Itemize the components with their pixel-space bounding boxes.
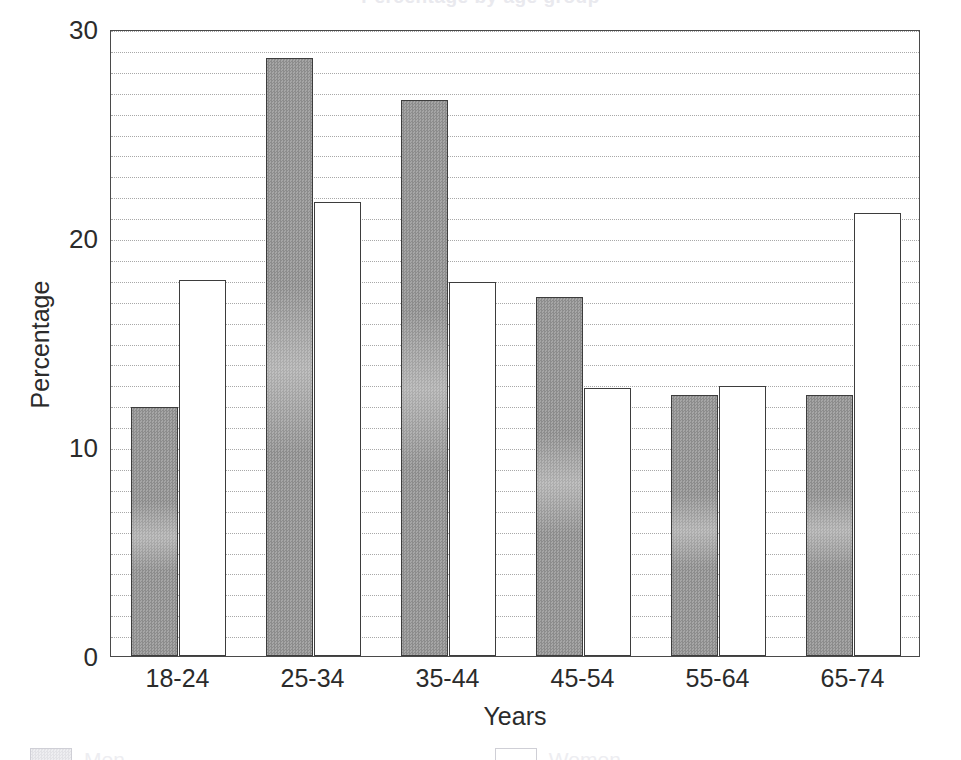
x-axis-ticks: 18-2425-3435-4445-5455-6465-74: [110, 664, 920, 698]
bar-65-74-men: [806, 395, 854, 656]
bar-45-54-men: [536, 297, 584, 656]
chart-title-cropped: Percentage by age group: [0, 0, 961, 14]
bar-18-24-women: [179, 280, 227, 656]
bar-55-64-women: [719, 386, 767, 656]
chart-title: Percentage by age group: [0, 0, 961, 8]
legend-label: Women: [549, 748, 621, 760]
legend-item: Women: [495, 748, 621, 760]
bar-25-34-women: [314, 202, 362, 656]
legend-swatch-icon: [30, 748, 72, 760]
legend-label: Men: [84, 748, 125, 760]
x-axis-title: Years: [110, 702, 920, 731]
legend-cropped: MenWomen: [0, 748, 961, 760]
legend-swatch-icon: [495, 748, 537, 760]
bar-55-64-men: [671, 395, 719, 656]
y-tick-label: 0: [26, 642, 98, 673]
x-tick-label: 18-24: [146, 664, 210, 693]
plot-area: [110, 30, 920, 657]
bar-45-54-women: [584, 388, 632, 656]
y-tick-label: 30: [26, 15, 98, 46]
bar-chart-figure: Percentage by age group 0102030 Percenta…: [0, 0, 961, 760]
legend: MenWomen: [0, 748, 961, 760]
y-axis-title: Percentage: [26, 195, 55, 495]
x-tick-label: 65-74: [821, 664, 885, 693]
bar-18-24-men: [131, 407, 179, 656]
bar-35-44-women: [449, 282, 497, 656]
x-tick-label: 55-64: [686, 664, 750, 693]
x-tick-label: 45-54: [551, 664, 615, 693]
legend-item: Men: [30, 748, 125, 760]
x-tick-label: 25-34: [281, 664, 345, 693]
bar-35-44-men: [401, 100, 449, 656]
x-tick-label: 35-44: [416, 664, 480, 693]
bars-layer: [111, 31, 919, 656]
bar-65-74-women: [854, 213, 902, 656]
bar-25-34-men: [266, 58, 314, 656]
